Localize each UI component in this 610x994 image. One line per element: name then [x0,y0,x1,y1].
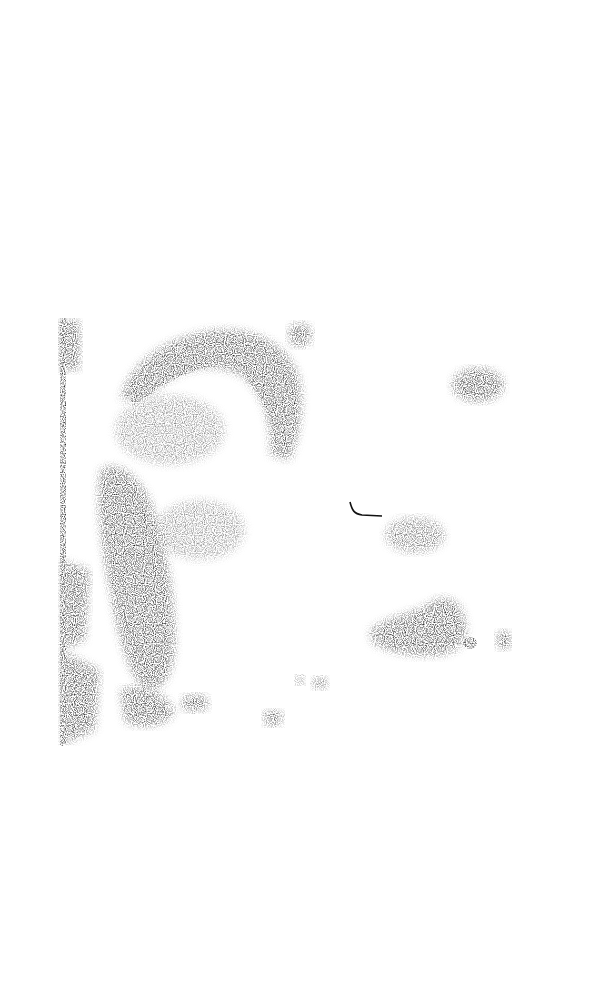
halftone-photo [0,0,610,994]
paper-background [0,0,610,994]
